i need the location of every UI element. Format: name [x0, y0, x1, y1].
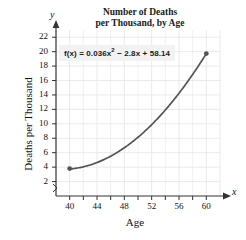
y-axis-variable-name: y — [50, 9, 54, 20]
equation-constant-term: + 58.14 — [143, 49, 171, 58]
x-axis-arrow-icon — [223, 193, 231, 200]
x-tick-label: 60 — [194, 201, 218, 211]
x-tick-label: 56 — [167, 201, 191, 211]
x-tick-label: 48 — [112, 201, 136, 211]
y-axis-label: Deaths per Thousand — [22, 49, 34, 199]
equation-exponent: 2 — [111, 47, 114, 53]
equation-lhs: f(x) — [64, 49, 77, 58]
right-endpoint — [204, 51, 209, 56]
equation-quadratic-term: 0.036x — [86, 49, 111, 58]
left-endpoint — [67, 166, 72, 171]
chart-figure: Number of Deaths per Thousand, by Age f(… — [0, 0, 246, 240]
x-tick-label: 40 — [58, 201, 82, 211]
equation-linear-term: − 2.8x — [117, 49, 140, 58]
equation-annotation: f(x) = 0.036x2 − 2.8x + 58.14 — [59, 45, 175, 61]
y-tick-label: 22 — [26, 31, 48, 41]
x-tick-label: 52 — [140, 201, 164, 211]
axis-ticks — [52, 37, 206, 200]
x-axis-variable-name: x — [232, 186, 236, 197]
x-tick-label: 44 — [85, 201, 109, 211]
y-axis-arrow-icon — [53, 20, 60, 28]
equation-equals: = — [79, 49, 84, 58]
x-axis-label: Age — [60, 216, 210, 228]
